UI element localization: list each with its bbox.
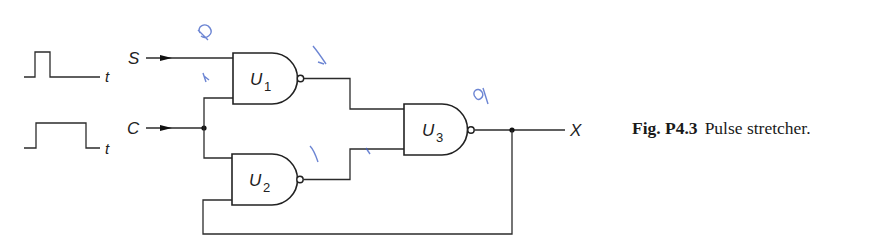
u1-output-wire <box>304 79 404 110</box>
u2-inversion-bubble <box>297 176 303 182</box>
figure-title: Pulse stretcher. <box>705 118 811 138</box>
figure-number: Fig. P4.3 <box>632 118 698 138</box>
s-waveform-t-label: t <box>105 68 110 85</box>
u1-index: 1 <box>264 79 271 94</box>
s-waveform: t <box>24 52 110 85</box>
c-waveform: t <box>24 123 110 157</box>
annotation-scribble-4 <box>474 88 488 104</box>
s-arrow-icon <box>160 55 172 61</box>
annotation-scribble-1 <box>198 25 211 40</box>
gate-u3: U 3 <box>404 104 474 155</box>
u1-label: U <box>250 70 263 89</box>
x-output-label: X <box>569 121 582 140</box>
u2-index: 2 <box>263 180 270 195</box>
gate-u1: U 1 <box>233 53 304 104</box>
c-input-label: C <box>127 119 140 138</box>
s-input-label: S <box>128 49 140 68</box>
u3-index: 3 <box>436 130 443 145</box>
u1-inversion-bubble <box>297 75 303 81</box>
c-arrow-icon <box>160 125 172 131</box>
annotation-scribble-5 <box>310 146 318 162</box>
figure-caption: Fig. P4.3Pulse stretcher. <box>632 118 811 139</box>
u2-label: U <box>249 171 262 190</box>
annotation-scribble-3 <box>313 46 326 64</box>
c-waveform-t-label: t <box>105 140 110 157</box>
u3-inversion-bubble <box>468 127 474 133</box>
c-branch-wire <box>204 98 233 158</box>
u3-label: U <box>422 121 435 140</box>
u2-output-wire <box>304 149 405 180</box>
gate-u2: U 2 <box>232 154 303 205</box>
annotation-scribble-2 <box>203 73 209 82</box>
